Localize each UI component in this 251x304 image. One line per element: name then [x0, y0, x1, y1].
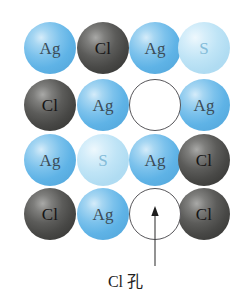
vacancy-caption: Cl 孔: [0, 268, 251, 292]
vacancy-pointer-arrow: [0, 0, 251, 304]
figure-root: Ag Cl Ag S Cl Ag Ag Ag S Ag: [0, 0, 251, 304]
